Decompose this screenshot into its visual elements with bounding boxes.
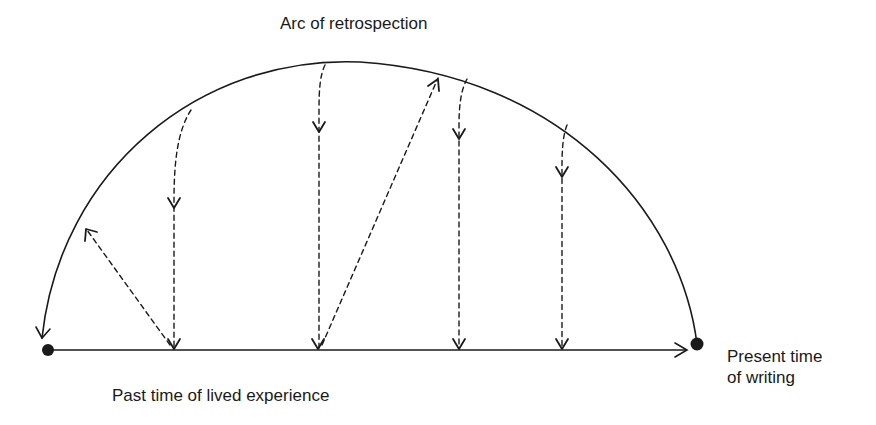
retrospection-arc: [42, 62, 697, 344]
present-dot: [691, 338, 704, 351]
dashed-arrow-drop-2: [319, 65, 325, 348]
dashed-arrow-drop-3: [459, 79, 467, 348]
dashed-arrow-drop-4: [562, 125, 567, 348]
past-dot: [42, 344, 54, 356]
dashed-arrow-up-left: [87, 230, 170, 345]
endpoint-label-line2: of writing: [727, 367, 822, 388]
endpoint-label: Present time of writing: [727, 346, 822, 388]
endpoint-label-line1: Present time: [727, 346, 822, 367]
dashed-arrow-up-right: [322, 78, 438, 345]
retrospection-diagram: Arc of retrospection Past time of lived …: [0, 0, 876, 425]
dashed-arrow-drop-1: [174, 110, 191, 348]
baseline-label: Past time of lived experience: [112, 385, 329, 406]
diagram-title: Arc of retrospection: [280, 13, 427, 34]
